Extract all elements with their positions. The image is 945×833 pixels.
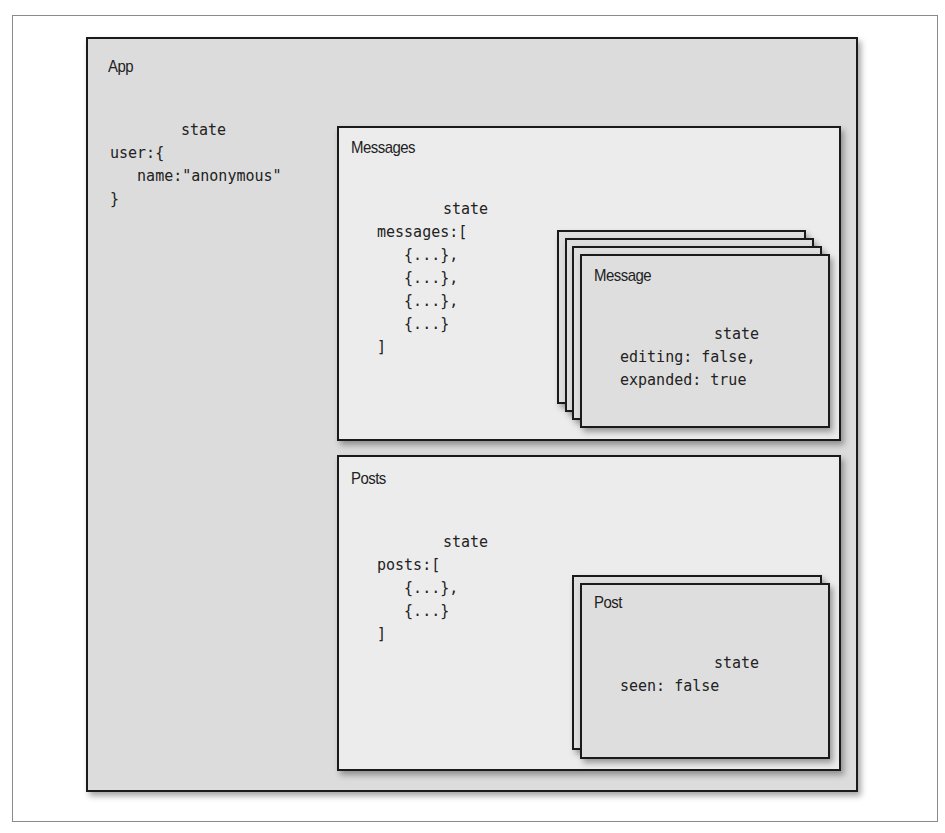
messages-title: Messages [351, 138, 415, 158]
app-state-code: user:{ name:"anonymous" } [110, 142, 282, 211]
post-state-label: state [714, 652, 759, 675]
messages-state-code: messages:[ {...}, {...}, {...}, {...} ] [377, 221, 467, 359]
post-title: Post [594, 593, 622, 613]
posts-state-label: state [443, 531, 488, 554]
message-state-code: editing: false, expanded: true [620, 346, 755, 392]
posts-title: Posts [351, 469, 386, 489]
message-title: Message [594, 266, 651, 286]
post-state-code: seen: false [620, 675, 719, 698]
message-state-label: state [714, 323, 759, 346]
posts-state-code: posts:[ {...}, {...} ] [377, 554, 458, 646]
app-title: App [108, 57, 133, 77]
post-component: Post state seen: false [580, 583, 830, 759]
app-state-label: state [181, 119, 226, 142]
messages-state-label: state [443, 198, 488, 221]
message-component: Message state editing: false, expanded: … [580, 254, 830, 428]
